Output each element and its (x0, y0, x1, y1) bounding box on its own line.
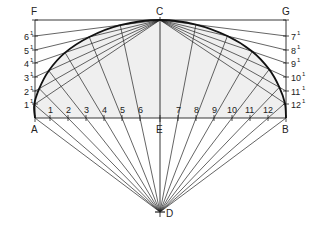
base-division-label: 12 (263, 105, 273, 115)
right-division-label: 10 (291, 73, 301, 83)
label-D: D (166, 208, 173, 219)
left-division-label: 5 (24, 46, 29, 56)
right-division-sup: 1 (302, 71, 306, 77)
base-division-label: 8 (194, 105, 199, 115)
left-division-label: 3 (24, 73, 29, 83)
right-division-sup: 1 (302, 98, 306, 104)
left-division-label: 1 (24, 100, 29, 110)
base-division-label: 1 (48, 105, 53, 115)
base-division-label: 3 (84, 105, 89, 115)
label-B: B (282, 124, 289, 135)
base-division-label: 9 (212, 105, 217, 115)
right-division-label: 12 (291, 100, 301, 110)
right-division-label: 8 (291, 46, 296, 56)
left-division-label: 2 (24, 87, 29, 97)
left-division-sup: 1 (30, 44, 34, 50)
base-division-label: 6 (138, 105, 143, 115)
label-G: G (282, 6, 290, 17)
right-division-sup: 1 (297, 30, 301, 36)
label-E: E (156, 124, 163, 135)
left-division-sup: 1 (30, 71, 34, 77)
left-division-sup: 1 (30, 98, 34, 104)
right-division-sup: 1 (297, 44, 301, 50)
label-C: C (156, 6, 163, 17)
ray-D-to-12 (160, 103, 285, 212)
right-division-sup: 1 (297, 57, 301, 63)
label-F: F (31, 6, 37, 17)
parabola-construction-diagram: F C G A E B D 11213141516171819110111112… (0, 0, 323, 233)
right-division-label: 11 (291, 87, 300, 97)
base-division-label: 11 (245, 105, 254, 115)
left-division-label: 6 (24, 32, 29, 42)
left-division-label: 4 (24, 59, 29, 69)
ray-D-to-1 (34, 105, 160, 212)
right-division-label: 7 (291, 32, 296, 42)
base-division-label: 2 (66, 105, 71, 115)
ray-D-to-B (160, 118, 286, 212)
label-A: A (31, 124, 38, 135)
left-division-sup: 1 (30, 85, 34, 91)
right-division-label: 9 (291, 59, 296, 69)
base-division-label: 4 (102, 105, 107, 115)
base-division-label: 10 (227, 105, 237, 115)
base-division-label: 5 (120, 105, 125, 115)
base-division-label: 7 (176, 105, 181, 115)
left-division-sup: 1 (30, 30, 34, 36)
left-division-sup: 1 (30, 57, 34, 63)
right-division-sup: 1 (302, 85, 306, 91)
